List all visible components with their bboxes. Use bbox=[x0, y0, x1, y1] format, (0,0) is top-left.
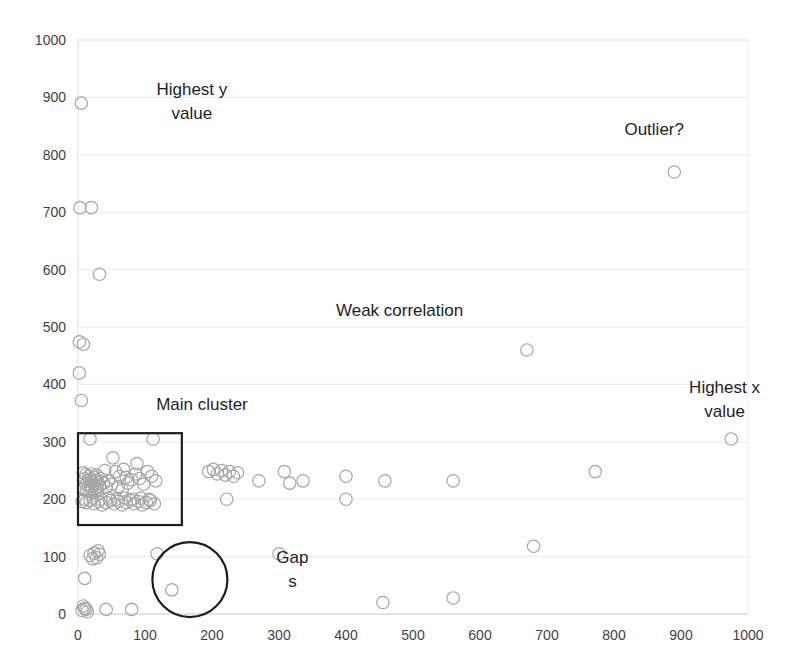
x-axis-tick-label: 100 bbox=[133, 627, 157, 643]
annotation-label: Weak correlation bbox=[336, 301, 463, 320]
scatter-chart: 01002003004005006007008009001000 0100200… bbox=[0, 0, 808, 672]
data-point bbox=[77, 338, 89, 350]
data-point bbox=[166, 584, 178, 596]
y-axis-tick-label: 100 bbox=[43, 549, 67, 565]
annotation-outlier: Outlier? bbox=[624, 120, 684, 139]
annotation-label: Main cluster bbox=[156, 395, 248, 414]
y-axis-tick-label: 200 bbox=[43, 491, 67, 507]
x-axis-tick-label: 0 bbox=[74, 627, 82, 643]
annotation-label-line2: value bbox=[172, 104, 213, 123]
x-axis-tick-labels: 01002003004005006007008009001000 bbox=[74, 627, 764, 643]
x-axis-tick-label: 200 bbox=[200, 627, 224, 643]
data-point bbox=[75, 97, 87, 109]
y-axis-tick-label: 300 bbox=[43, 434, 67, 450]
data-point bbox=[107, 452, 119, 464]
x-axis-tick-label: 700 bbox=[535, 627, 559, 643]
data-point bbox=[725, 433, 737, 445]
x-axis-tick-label: 400 bbox=[334, 627, 358, 643]
annotation-label: Highest x bbox=[689, 378, 760, 397]
chart-annotations: Highest yvalueOutlier?Weak correlationHi… bbox=[156, 80, 760, 592]
data-point bbox=[668, 166, 680, 178]
data-point bbox=[447, 475, 459, 487]
data-point bbox=[231, 467, 243, 479]
data-point bbox=[73, 367, 85, 379]
annotation-shapes bbox=[78, 433, 227, 617]
data-point bbox=[284, 477, 296, 489]
y-axis-tick-label: 1000 bbox=[35, 32, 66, 48]
data-point bbox=[278, 465, 290, 477]
gap-circle bbox=[152, 542, 227, 617]
annotation-label-line2: s bbox=[288, 572, 297, 591]
data-point bbox=[117, 463, 129, 475]
annotation-label-line2: value bbox=[704, 402, 745, 421]
data-point bbox=[253, 475, 265, 487]
annotation-weak-correlation: Weak correlation bbox=[336, 301, 463, 320]
x-axis-tick-label: 500 bbox=[401, 627, 425, 643]
annotation-label: Gap bbox=[276, 548, 308, 567]
x-axis-tick-label: 600 bbox=[468, 627, 492, 643]
annotation-main-cluster: Main cluster bbox=[156, 395, 248, 414]
y-axis-tick-label: 700 bbox=[43, 204, 67, 220]
data-point bbox=[79, 572, 91, 584]
y-axis-tick-label: 900 bbox=[43, 89, 67, 105]
data-markers bbox=[73, 97, 737, 618]
data-point bbox=[75, 394, 87, 406]
y-axis-tick-label: 400 bbox=[43, 376, 67, 392]
annotation-highest-y: Highest yvalue bbox=[156, 80, 227, 123]
y-axis-tick-labels: 01002003004005006007008009001000 bbox=[35, 32, 66, 622]
data-point bbox=[521, 344, 533, 356]
annotation-label: Outlier? bbox=[624, 120, 684, 139]
data-point bbox=[340, 470, 352, 482]
annotation-label: Highest y bbox=[156, 80, 227, 99]
data-point bbox=[377, 596, 389, 608]
data-point bbox=[379, 475, 391, 487]
data-point bbox=[447, 592, 459, 604]
x-axis-tick-label: 1000 bbox=[732, 627, 763, 643]
x-axis-tick-label: 300 bbox=[267, 627, 291, 643]
annotation-highest-x: Highest xvalue bbox=[689, 378, 760, 421]
data-point bbox=[84, 433, 96, 445]
annotation-gaps: Gaps bbox=[276, 548, 308, 591]
y-axis-tick-label: 500 bbox=[43, 319, 67, 335]
y-axis-tick-label: 600 bbox=[43, 262, 67, 278]
x-axis-tick-label: 900 bbox=[669, 627, 693, 643]
y-axis-tick-label: 800 bbox=[43, 147, 67, 163]
data-point bbox=[297, 475, 309, 487]
x-axis-tick-label: 800 bbox=[602, 627, 626, 643]
y-axis-tick-label: 0 bbox=[58, 606, 66, 622]
data-point bbox=[527, 540, 539, 552]
data-point bbox=[147, 433, 159, 445]
scatter-plot-canvas: 01002003004005006007008009001000 0100200… bbox=[0, 0, 808, 672]
data-point bbox=[589, 465, 601, 477]
